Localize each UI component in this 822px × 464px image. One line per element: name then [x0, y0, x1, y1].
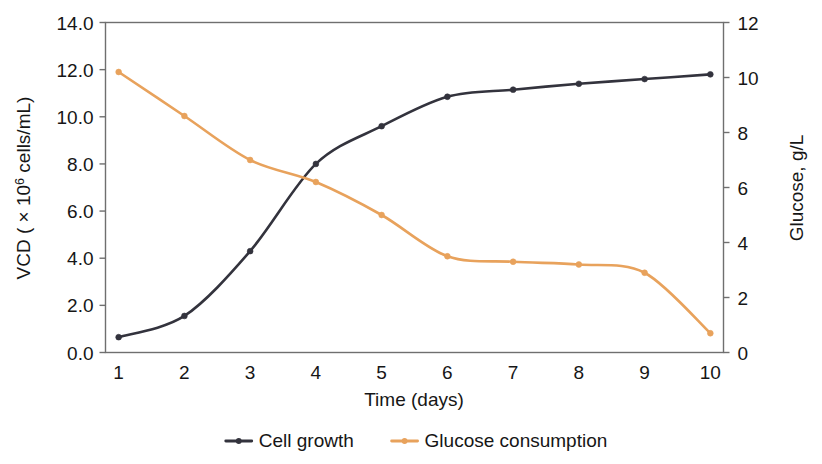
right-axis-ticks: [724, 23, 730, 353]
series-layer: [116, 69, 713, 340]
left-tick-label: 12.0: [57, 60, 94, 81]
data-point: [116, 69, 122, 75]
x-axis-title: Time (days): [364, 389, 464, 410]
left-tick-label: 4.0: [67, 248, 93, 269]
data-point: [444, 94, 450, 100]
legend-item: Glucose consumption: [392, 430, 608, 451]
chart-legend: Cell growthGlucose consumption: [226, 430, 608, 451]
left-tick-label: 10.0: [57, 107, 94, 128]
right-axis-tick-labels: 024681012: [738, 13, 759, 364]
legend-marker-icon: [402, 438, 408, 444]
data-point: [181, 113, 187, 119]
data-point: [642, 76, 648, 82]
right-tick-label: 12: [738, 13, 759, 34]
right-tick-label: 8: [738, 123, 749, 144]
right-axis-title: Glucose, g/L: [786, 135, 807, 242]
x-tick-label: 3: [245, 362, 256, 383]
left-tick-label: 14.0: [57, 13, 94, 34]
series-line: [119, 74, 711, 337]
data-point: [510, 87, 516, 93]
data-point: [181, 313, 187, 319]
left-axis-tick-labels: 0.02.04.06.08.010.012.014.0: [57, 13, 94, 364]
left-axis-title-prefix: VCD ( × 10: [13, 185, 34, 280]
x-tick-label: 2: [179, 362, 190, 383]
data-point: [707, 330, 713, 336]
legend-label: Cell growth: [259, 430, 354, 451]
left-axis-title-suffix: cells/mL): [13, 97, 34, 178]
right-tick-label: 0: [738, 343, 749, 364]
left-tick-label: 8.0: [67, 154, 93, 175]
x-tick-label: 7: [508, 362, 519, 383]
right-tick-label: 10: [738, 68, 759, 89]
data-point: [313, 161, 319, 167]
x-tick-label: 1: [113, 362, 124, 383]
left-axis-title: VCD ( × 106 cells/mL): [13, 97, 34, 280]
x-tick-label: 4: [311, 362, 322, 383]
left-tick-label: 0.0: [67, 343, 93, 364]
data-point: [642, 270, 648, 276]
data-point: [576, 262, 582, 268]
x-tick-label: 5: [376, 362, 387, 383]
legend-marker-icon: [236, 438, 242, 444]
legend-item: Cell growth: [226, 430, 354, 451]
data-point: [313, 179, 319, 185]
data-point: [116, 334, 122, 340]
x-tick-label: 9: [639, 362, 650, 383]
chart-figure: 0.02.04.06.08.010.012.014.0 024681012 12…: [0, 0, 822, 464]
right-tick-label: 2: [738, 288, 749, 309]
plot-frame: [106, 23, 724, 353]
x-tick-label: 10: [700, 362, 721, 383]
data-point: [247, 248, 253, 254]
x-tick-label: 6: [442, 362, 453, 383]
series-cell-growth: [116, 71, 713, 340]
data-point: [247, 157, 253, 163]
right-tick-label: 4: [738, 233, 749, 254]
data-point: [444, 253, 450, 259]
data-point: [379, 123, 385, 129]
left-tick-label: 2.0: [67, 295, 93, 316]
left-axis-title-exponent: 6: [13, 178, 27, 185]
left-tick-label: 6.0: [67, 201, 93, 222]
legend-label: Glucose consumption: [425, 430, 608, 451]
left-axis-ticks: [100, 23, 106, 353]
chart-svg: 0.02.04.06.08.010.012.014.0 024681012 12…: [0, 0, 822, 464]
data-point: [707, 71, 713, 77]
data-point: [510, 259, 516, 265]
x-axis-tick-labels: 12345678910: [113, 362, 721, 383]
right-tick-label: 6: [738, 178, 749, 199]
x-tick-label: 8: [574, 362, 585, 383]
data-point: [379, 212, 385, 218]
data-point: [576, 81, 582, 87]
